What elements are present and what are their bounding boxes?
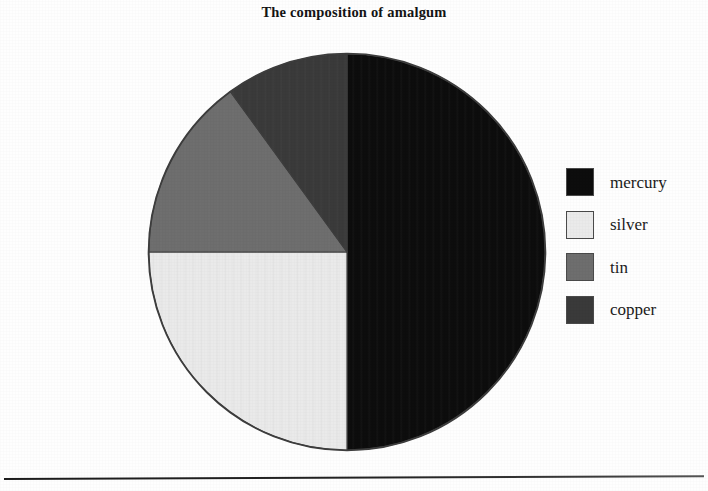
legend-item-silver[interactable]: silver [566, 211, 667, 239]
pie-slice-group [149, 54, 545, 450]
legend-item-copper[interactable]: copper [566, 296, 667, 324]
pie-chart-svg [147, 52, 547, 452]
pie-chart [147, 52, 547, 452]
footer-divider [4, 475, 704, 480]
legend-label-tin: tin [610, 259, 628, 276]
legend-swatch-mercury [566, 168, 594, 196]
pie-slice-mercury[interactable] [347, 54, 545, 450]
page-title: The composition of amalgum [0, 4, 708, 21]
pie-slice-silver[interactable] [149, 252, 347, 450]
legend: mercury silver tin copper [566, 168, 667, 338]
figure-page: The composition of amalgum mercury silve… [0, 0, 708, 491]
legend-label-silver: silver [610, 216, 648, 233]
legend-item-tin[interactable]: tin [566, 253, 667, 281]
legend-label-copper: copper [610, 301, 656, 318]
legend-swatch-silver [566, 211, 594, 239]
legend-swatch-copper [566, 296, 594, 324]
legend-swatch-tin [566, 253, 594, 281]
legend-item-mercury[interactable]: mercury [566, 168, 667, 196]
legend-label-mercury: mercury [610, 174, 667, 191]
